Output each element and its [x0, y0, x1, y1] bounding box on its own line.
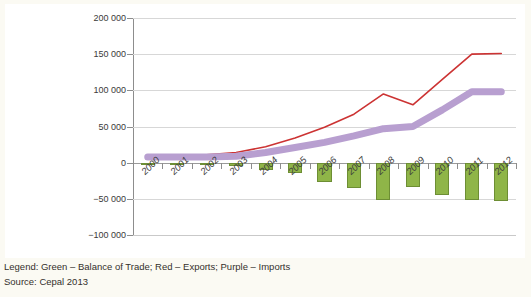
caption-legend-line: Legend: Green – Balance of Trade; Red – …: [4, 259, 527, 274]
y-axis-tick-label: 150 000: [93, 49, 126, 59]
x-axis-tick: [516, 163, 517, 169]
figure-caption: Legend: Green – Balance of Trade; Red – …: [4, 259, 527, 289]
figure-margin-right: [525, 0, 531, 258]
caption-source-line: Source: Cepal 2013: [4, 274, 527, 289]
figure-margin-top: [0, 0, 531, 4]
y-axis-tick-label: 0: [121, 158, 126, 168]
x-axis-labels: 2000200120022003200420052006200720082009…: [133, 169, 516, 229]
y-axis-tick-label: 100 000: [93, 85, 126, 95]
y-axis-tick-label: 200 000: [93, 13, 126, 23]
y-axis-tick-label: −50 000: [93, 194, 126, 204]
chart-plot-surface: 200 000150 000100 00050 0000−50 000−100 …: [0, 0, 531, 258]
trade-chart-figure: 200 000150 000100 00050 0000−50 000−100 …: [0, 0, 531, 297]
x-axis-baseline: [133, 235, 516, 236]
y-axis-tick-label: 50 000: [98, 122, 126, 132]
y-axis-labels: 200 000150 000100 00050 0000−50 000−100 …: [60, 18, 126, 235]
y-axis-tick-label: −100 000: [88, 230, 126, 240]
figure-margin-left: [0, 0, 5, 258]
